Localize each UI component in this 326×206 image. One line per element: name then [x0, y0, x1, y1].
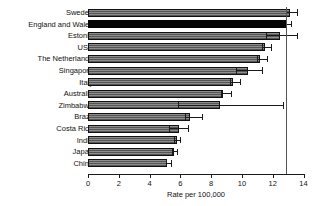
bar-row: Australia [0, 88, 326, 100]
error-bar-cap-low [169, 125, 170, 131]
error-bar-line [257, 59, 267, 60]
error-bar-cap-high [177, 149, 178, 155]
bar [88, 55, 260, 63]
error-bar-cap-low [257, 56, 258, 62]
error-bar-cap-low [174, 137, 175, 143]
bar [88, 78, 233, 86]
error-bar-line [266, 35, 297, 36]
bar-row: Brazil [0, 111, 326, 123]
error-bar-cap-high [267, 56, 268, 62]
bar [88, 43, 265, 51]
error-bar-line [286, 12, 297, 13]
category-label: Sweden [0, 7, 93, 19]
error-bar-cap-low [266, 33, 267, 39]
category-label: Japan [0, 146, 93, 158]
x-tick [88, 174, 89, 178]
category-label: India [0, 135, 93, 147]
bar-row: Singapore [0, 65, 326, 77]
x-tick [304, 174, 305, 178]
error-bar-line [185, 117, 202, 118]
error-bar-cap-high [202, 114, 203, 120]
error-bar-cap-high [188, 125, 189, 131]
bar-row: USA [0, 42, 326, 54]
x-tick-label: 4 [147, 179, 151, 188]
bar [88, 9, 290, 17]
x-tick-label: 10 [238, 179, 246, 188]
bar [88, 136, 177, 144]
category-label: Estonia [0, 30, 93, 42]
error-bar-cap-high [171, 160, 172, 166]
bar [88, 148, 174, 156]
x-tick [211, 174, 212, 178]
error-bar-line [236, 70, 262, 71]
error-bar-cap-low [221, 91, 222, 97]
bar [88, 90, 223, 98]
bar-row: The Netherlands [0, 53, 326, 65]
error-bar-cap-high [291, 21, 292, 27]
category-label: Zimbabwe [0, 100, 93, 112]
category-label: Costa Rica [0, 123, 93, 135]
x-tick [150, 174, 151, 178]
bar [88, 113, 190, 121]
error-bar-cap-low [178, 102, 179, 108]
x-tick-label: 6 [178, 179, 182, 188]
bar-row: Sweden [0, 7, 326, 19]
x-tick-label: 8 [209, 179, 213, 188]
x-tick-label: 0 [86, 179, 90, 188]
error-bar-cap-high [240, 79, 241, 85]
x-tick-label: 12 [269, 179, 277, 188]
bar-chart: 02468101214 SwedenEngland and WalesEston… [0, 0, 326, 206]
category-label: Australia [0, 88, 93, 100]
error-bar-line [169, 128, 188, 129]
x-tick [180, 174, 181, 178]
bar [88, 32, 280, 40]
x-tick [119, 174, 120, 178]
bar [88, 20, 286, 28]
x-tick-label: 14 [299, 179, 307, 188]
bar-row: Zimbabwe [0, 100, 326, 112]
x-tick [242, 174, 243, 178]
error-bar-cap-low [230, 79, 231, 85]
bar [88, 125, 179, 133]
bar-row: Japan [0, 146, 326, 158]
error-bar-cap-high [297, 9, 298, 15]
bar-row: Estonia [0, 30, 326, 42]
category-label: Brazil [0, 111, 93, 123]
bar-row: Italy [0, 77, 326, 89]
category-label: USA [0, 42, 93, 54]
error-bar-cap-low [185, 114, 186, 120]
bar-row: India [0, 135, 326, 147]
reference-line [286, 7, 287, 174]
category-label: The Netherlands [0, 53, 93, 65]
error-bar-cap-high [271, 44, 272, 50]
category-label: Italy [0, 77, 93, 89]
error-bar-cap-low [262, 44, 263, 50]
error-bar-cap-low [236, 67, 237, 73]
x-tick-label: 2 [117, 179, 121, 188]
x-axis-line [88, 174, 304, 175]
category-label: China [0, 158, 93, 170]
error-bar-cap-low [172, 149, 173, 155]
category-label: England and Wales [0, 19, 93, 31]
bar [88, 159, 167, 167]
category-label: Singapore [0, 65, 93, 77]
bar-row: Costa Rica [0, 123, 326, 135]
error-bar-line [230, 82, 240, 83]
x-axis-label: Rate per 100,000 [88, 190, 304, 199]
error-bar-cap-low [166, 160, 167, 166]
bar [88, 67, 248, 75]
error-bar-cap-high [180, 137, 181, 143]
error-bar-line [178, 105, 283, 106]
error-bar-line [221, 93, 231, 94]
bar-row: China [0, 158, 326, 170]
error-bar-cap-high [231, 91, 232, 97]
error-bar-cap-high [297, 33, 298, 39]
bar-row: England and Wales [0, 19, 326, 31]
error-bar-line [262, 47, 271, 48]
error-bar-cap-high [283, 102, 284, 108]
x-tick [273, 174, 274, 178]
error-bar-cap-high [262, 67, 263, 73]
